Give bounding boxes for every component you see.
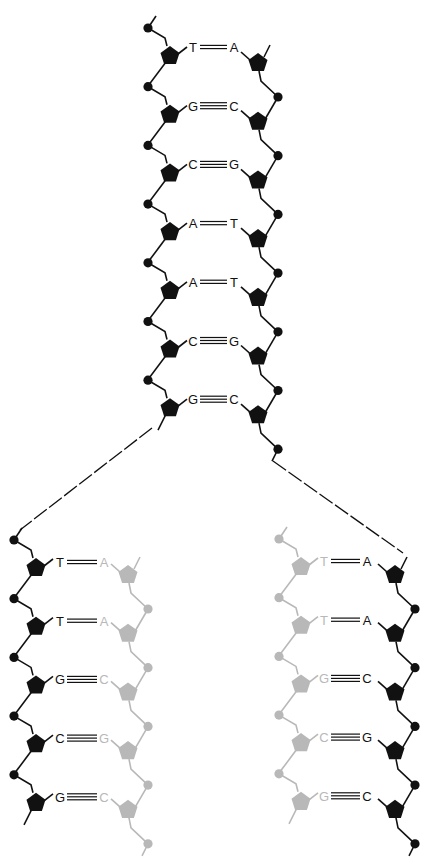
base-stub	[44, 735, 53, 742]
phosphate-icon	[273, 151, 282, 160]
base-stub	[378, 799, 387, 807]
backbone-line	[264, 45, 270, 57]
base-stub	[178, 47, 187, 54]
parent-right-nucleotide	[241, 111, 283, 180]
base-pair: TA	[56, 555, 109, 570]
deoxyribose-sugar-icon	[386, 624, 405, 642]
phosphate-icon	[143, 376, 152, 385]
base-stub	[309, 617, 318, 624]
new-strand-nucleotide	[111, 557, 153, 633]
deoxyribose-sugar-icon	[249, 347, 268, 365]
backbone-line	[396, 700, 415, 726]
base-right-label: T	[230, 275, 238, 290]
phosphate-icon	[273, 210, 282, 219]
parent-left-nucleotide	[143, 82, 187, 145]
base-pair: GC	[319, 671, 372, 686]
deoxyribose-sugar-icon	[161, 163, 180, 181]
phosphate-icon	[273, 445, 282, 454]
phosphate-icon	[143, 781, 152, 790]
backbone-line	[279, 690, 297, 714]
phosphate-icon	[410, 663, 419, 672]
parent-right-nucleotide	[241, 45, 283, 121]
deoxyribose-sugar-icon	[27, 558, 46, 576]
deoxyribose-sugar-icon	[119, 682, 138, 700]
base-stub	[378, 681, 387, 689]
base-pair: AT	[189, 216, 238, 231]
backbone-line	[129, 759, 148, 785]
base-pair: CG	[188, 157, 239, 172]
base-stub	[241, 287, 250, 295]
old-strand-nucleotide	[9, 712, 53, 775]
phosphate-icon	[143, 141, 152, 150]
fork-line-right	[273, 461, 403, 553]
base-stub	[309, 793, 318, 800]
base-stub	[178, 282, 187, 289]
base-pair: GC	[188, 392, 239, 407]
base-pair: AT	[189, 275, 238, 290]
base-pair: TA	[189, 40, 239, 55]
backbone-line	[14, 574, 32, 598]
base-stub	[241, 346, 250, 354]
new-strand-nucleotide	[274, 769, 318, 824]
base-right-label: C	[99, 790, 108, 805]
base-right-label: A	[230, 40, 239, 55]
base-stub	[178, 223, 187, 230]
base-pair: TA	[320, 554, 372, 569]
backbone-line	[134, 557, 140, 569]
phosphate-icon	[143, 663, 152, 672]
phosphate-icon	[9, 653, 18, 662]
backbone-line	[259, 188, 278, 214]
deoxyribose-sugar-icon	[119, 741, 138, 759]
phosphate-icon	[273, 327, 282, 336]
old-strand-nucleotide	[378, 623, 420, 692]
backbone-line	[396, 642, 415, 668]
backbone-line	[396, 759, 415, 785]
backbone-line	[24, 809, 32, 825]
backbone-line	[148, 356, 166, 380]
base-left-label: G	[319, 671, 329, 686]
parent-right-nucleotide	[241, 169, 283, 238]
base-right-label: A	[100, 614, 109, 629]
base-stub	[178, 106, 187, 113]
deoxyribose-sugar-icon	[119, 624, 138, 642]
base-stub	[378, 623, 387, 631]
base-pair: GC	[55, 672, 109, 687]
backbone-line	[158, 414, 166, 430]
phosphate-icon	[143, 200, 152, 209]
base-stub	[44, 559, 53, 566]
backbone-line	[259, 247, 278, 273]
old-strand-nucleotide	[9, 653, 53, 716]
deoxyribose-sugar-icon	[27, 793, 46, 811]
backbone-line	[129, 818, 148, 844]
backbone-line	[259, 71, 278, 97]
base-left-label: A	[189, 216, 198, 231]
base-left-label: G	[188, 99, 198, 114]
phosphate-icon	[143, 722, 152, 731]
new-strand-nucleotide	[274, 593, 318, 656]
base-pair: TA	[56, 614, 109, 629]
old-strand-nucleotide	[378, 681, 420, 750]
new-strand-nucleotide	[111, 799, 153, 856]
backbone-line	[396, 818, 415, 844]
base-right-label: C	[229, 392, 238, 407]
base-left-label: C	[55, 731, 64, 746]
deoxyribose-sugar-icon	[27, 675, 46, 693]
base-right-label: A	[363, 554, 372, 569]
base-left-label: T	[189, 40, 197, 55]
phosphate-icon	[274, 534, 283, 543]
phosphate-icon	[410, 781, 419, 790]
base-left-label: C	[188, 157, 197, 172]
base-stub	[111, 623, 120, 631]
base-left-label: C	[188, 334, 197, 349]
base-right-label: A	[100, 555, 109, 570]
base-stub	[241, 52, 250, 60]
new-strand-nucleotide	[274, 652, 318, 715]
phosphate-icon	[274, 711, 283, 720]
backbone-line	[148, 238, 166, 262]
deoxyribose-sugar-icon	[161, 222, 180, 240]
base-stub	[111, 564, 120, 572]
phosphate-icon	[143, 317, 152, 326]
base-pair: GC	[319, 789, 372, 804]
base-left-label: C	[319, 730, 328, 745]
phosphate-icon	[274, 593, 283, 602]
